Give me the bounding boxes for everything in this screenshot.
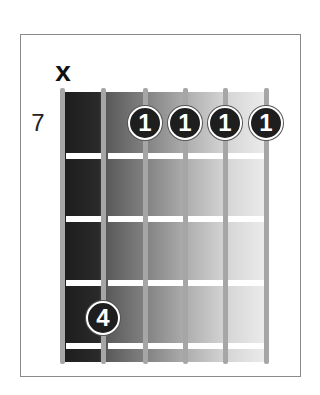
fret-line-1 — [188, 153, 223, 159]
fret-line-4 — [148, 343, 183, 349]
fret-line-4 — [228, 343, 264, 349]
fret-line-1 — [66, 153, 102, 159]
fret-line-2 — [108, 216, 143, 222]
finger-dot-string-3: 1 — [128, 106, 162, 140]
fret-line-3 — [66, 280, 102, 286]
fret-line-4 — [66, 343, 102, 349]
fret-line-3 — [108, 280, 143, 286]
finger-dot-string-5: 1 — [208, 106, 242, 140]
fret-line-3 — [228, 280, 264, 286]
fret-line-3 — [188, 280, 223, 286]
fret-line-1 — [148, 153, 183, 159]
muted-string-marker: x — [51, 58, 75, 86]
start-fret-label: 7 — [28, 108, 48, 138]
fret-line-2 — [188, 216, 223, 222]
fret-line-1 — [228, 153, 264, 159]
fret-line-2 — [66, 216, 102, 222]
fret-line-4 — [188, 343, 223, 349]
finger-dot-string-4: 1 — [168, 106, 202, 140]
finger-dot-string-6: 1 — [249, 106, 283, 140]
fret-line-2 — [148, 216, 183, 222]
fret-line-4 — [108, 343, 143, 349]
finger-dot-string-2: 4 — [86, 301, 120, 335]
fret-line-2 — [228, 216, 264, 222]
fret-line-3 — [148, 280, 183, 286]
string-1 — [60, 88, 65, 364]
fret-line-1 — [108, 153, 143, 159]
